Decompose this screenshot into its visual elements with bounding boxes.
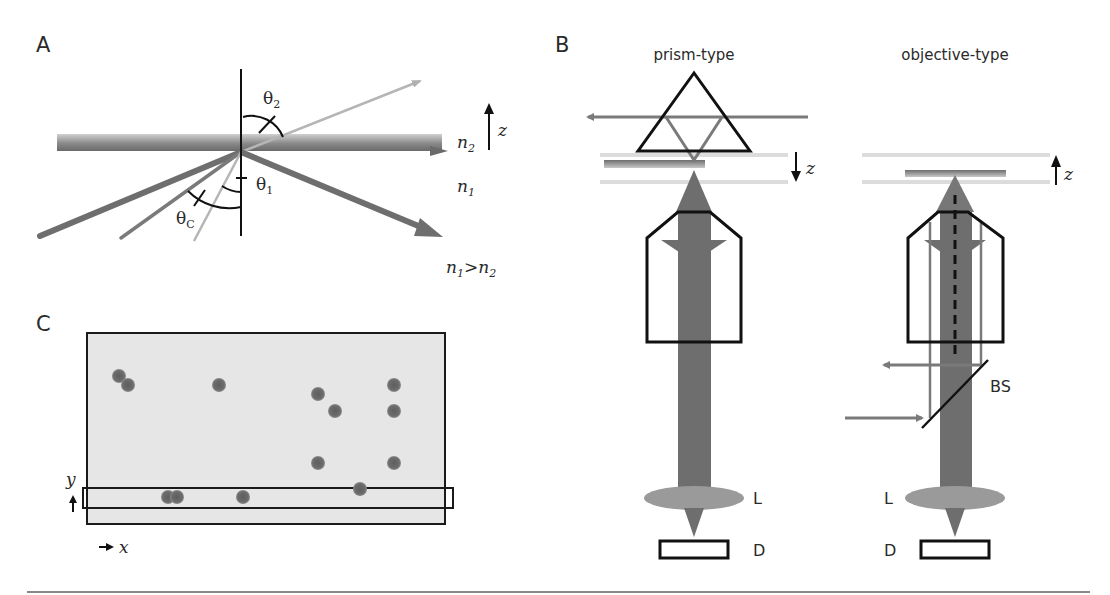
objective-type-title: objective-type bbox=[901, 46, 1008, 64]
spot bbox=[353, 482, 367, 496]
prism bbox=[638, 73, 750, 151]
prism-lens-label: L bbox=[753, 489, 762, 508]
panel-b-label: B bbox=[555, 33, 569, 57]
focus-cone bbox=[684, 508, 704, 537]
y-axis-label: y bbox=[65, 469, 76, 489]
objective-detector-label: D bbox=[884, 541, 896, 560]
spot bbox=[387, 378, 401, 392]
beamsplitter-label: BS bbox=[990, 377, 1011, 396]
thetac-label: θC bbox=[176, 208, 195, 231]
prism-type-title: prism-type bbox=[653, 46, 734, 64]
theta2-arc bbox=[243, 116, 283, 137]
spot bbox=[121, 378, 135, 392]
y-axis-arrowhead-icon bbox=[69, 495, 77, 503]
objective-lens-label: L bbox=[884, 489, 893, 508]
prism-z-label: z bbox=[805, 158, 816, 178]
spot bbox=[236, 490, 250, 504]
panel-a-label: A bbox=[36, 33, 51, 57]
n1-label: n1 bbox=[457, 176, 475, 199]
tube-lens bbox=[644, 486, 744, 510]
panel-b: B prism-type z bbox=[555, 33, 1074, 560]
theta1-arc bbox=[222, 186, 241, 192]
x-axis-label: x bbox=[119, 537, 129, 557]
n2-label: n2 bbox=[457, 132, 475, 155]
detector bbox=[921, 541, 989, 558]
objective-type-setup: objective-type z BS bbox=[845, 46, 1074, 560]
spot bbox=[328, 404, 342, 418]
spot bbox=[387, 404, 401, 418]
spot bbox=[170, 490, 184, 504]
sample-layer-right bbox=[640, 160, 705, 168]
tube-lens bbox=[905, 486, 1005, 510]
panel-c-label: C bbox=[36, 312, 51, 336]
reflected-arrow-icon bbox=[414, 218, 443, 237]
index-condition-label: n1>n2 bbox=[446, 257, 496, 280]
theta2-label: θ2 bbox=[263, 88, 280, 111]
x-axis-arrowhead-icon bbox=[106, 543, 114, 551]
theta1-label: θ1 bbox=[256, 174, 273, 197]
detector bbox=[660, 541, 728, 558]
emission-cone bbox=[676, 170, 712, 212]
z-axis-down-arrowhead-icon bbox=[791, 171, 801, 182]
panel-a: A θ2 θ1 θC n2 n1 n1>n2 z bbox=[36, 33, 508, 280]
objective-z-label: z bbox=[1063, 164, 1074, 184]
z-axis-label: z bbox=[497, 120, 508, 140]
tirf-figure: A θ2 θ1 θC n2 n1 n1>n2 z bbox=[0, 0, 1110, 595]
coverslip-top bbox=[862, 153, 1050, 157]
spot bbox=[387, 456, 401, 470]
spot bbox=[311, 456, 325, 470]
z-axis-up-arrowhead-icon bbox=[1051, 155, 1061, 167]
sample-field bbox=[87, 333, 445, 524]
sample-layer bbox=[905, 170, 1006, 177]
spot bbox=[311, 387, 325, 401]
emission-arrowhead-icon bbox=[661, 240, 727, 262]
focus-cone bbox=[945, 508, 965, 537]
spot bbox=[212, 378, 226, 392]
prism-detector-label: D bbox=[753, 541, 765, 560]
z-axis-arrowhead-icon bbox=[484, 103, 494, 114]
coverslip-top bbox=[600, 153, 788, 157]
panel-c: C y x bbox=[36, 312, 453, 557]
prism-type-setup: prism-type z L bbox=[588, 46, 816, 560]
